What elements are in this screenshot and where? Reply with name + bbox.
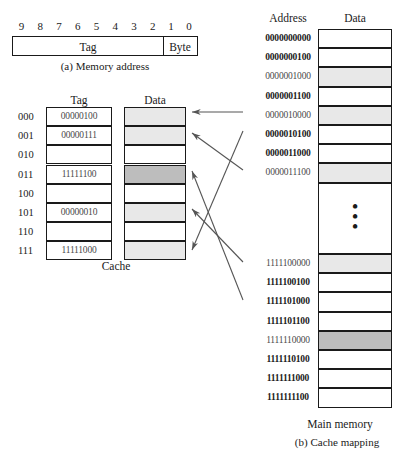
figure-root: 9876543210 Tag Byte (a) Memory address T… [0,0,403,461]
arrow-mem-0000011100-to-cache-001 [192,133,243,170]
mapping-arrows [0,0,403,461]
arrow-mem-1111100000-to-cache-101 [192,209,243,262]
